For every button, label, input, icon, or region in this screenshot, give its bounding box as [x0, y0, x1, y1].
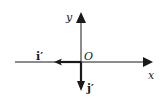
y-axis-arrowhead-icon: [76, 12, 86, 23]
x-axis-arrowhead-icon: [143, 57, 153, 67]
origin-label: O: [84, 51, 93, 62]
j-prime-arrowhead-icon: [77, 81, 85, 91]
j-prime-vector-label: j′: [87, 83, 94, 94]
y-axis-label: y: [66, 12, 72, 23]
coordinate-diagram: y O x i′ j′: [0, 0, 165, 102]
i-prime-vector-label: i′: [36, 51, 43, 62]
x-axis-label: x: [148, 70, 154, 81]
axes-graphic: [0, 0, 165, 102]
